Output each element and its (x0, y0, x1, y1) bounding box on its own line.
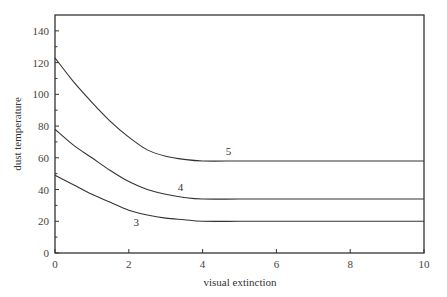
x-tick-label: 4 (200, 258, 206, 270)
chart: 020406080100120140 0246810 543 visual ex… (0, 0, 447, 297)
plot-frame (55, 15, 424, 253)
curve-3 (55, 175, 424, 221)
y-axis-title: dust temperature (11, 97, 23, 171)
y-tick-label: 140 (33, 25, 50, 37)
curve-4 (55, 129, 424, 199)
y-tick-label: 80 (38, 120, 50, 132)
x-axis: 0246810 (52, 249, 430, 270)
x-tick-label: 2 (126, 258, 132, 270)
curve-label-5: 5 (226, 145, 232, 157)
y-tick-label: 0 (44, 247, 50, 259)
y-tick-label: 120 (33, 57, 50, 69)
x-tick-label: 10 (419, 258, 431, 270)
y-tick-label: 20 (38, 215, 50, 227)
x-tick-label: 8 (347, 258, 353, 270)
curve-label-3: 3 (133, 216, 139, 228)
y-tick-label: 60 (38, 152, 50, 164)
y-tick-label: 40 (38, 184, 50, 196)
y-tick-label: 100 (33, 88, 50, 100)
x-tick-label: 0 (52, 258, 58, 270)
curve-label-4: 4 (178, 181, 184, 193)
x-axis-title: visual extinction (203, 276, 277, 288)
x-tick-label: 6 (274, 258, 280, 270)
plot-area: 543 (55, 58, 424, 228)
curve-5 (55, 58, 424, 161)
